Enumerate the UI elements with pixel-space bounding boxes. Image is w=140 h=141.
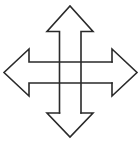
arrow-up-icon bbox=[47, 6, 93, 113]
arrow-right-icon bbox=[112, 49, 137, 96]
arrow-left-icon bbox=[4, 49, 112, 96]
move-arrows-icon-canvas bbox=[0, 0, 140, 141]
four-way-arrows-icon bbox=[0, 0, 140, 141]
arrow-down-icon bbox=[47, 113, 93, 137]
